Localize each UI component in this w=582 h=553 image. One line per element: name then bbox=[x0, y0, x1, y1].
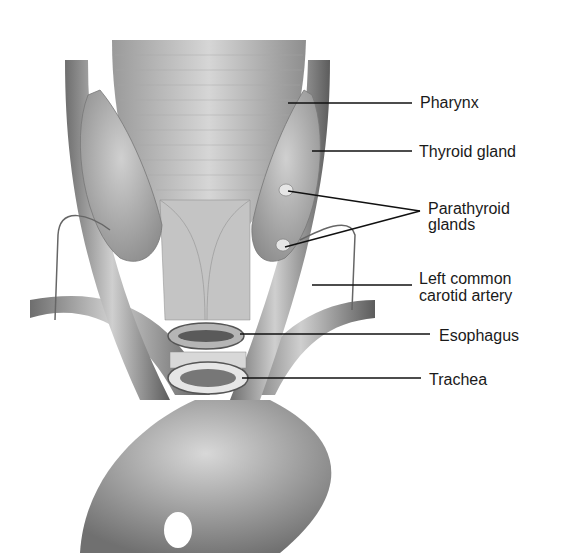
esophagus bbox=[160, 200, 250, 349]
label-trachea: Trachea bbox=[429, 371, 487, 388]
anatomy-diagram: Pharynx Thyroid gland Parathyroid glands… bbox=[0, 0, 582, 553]
label-thyroid-gland: Thyroid gland bbox=[419, 143, 516, 160]
trachea bbox=[168, 352, 248, 394]
label-left-common-carotid-line1: Left common bbox=[419, 270, 511, 287]
label-esophagus: Esophagus bbox=[439, 327, 519, 344]
aortic-arch bbox=[80, 400, 331, 553]
label-parathyroid-line1: Parathyroid bbox=[428, 200, 510, 217]
label-left-common-carotid-line2: carotid artery bbox=[419, 287, 512, 304]
label-parathyroid-line2: glands bbox=[428, 216, 475, 233]
label-pharynx: Pharynx bbox=[420, 94, 479, 111]
